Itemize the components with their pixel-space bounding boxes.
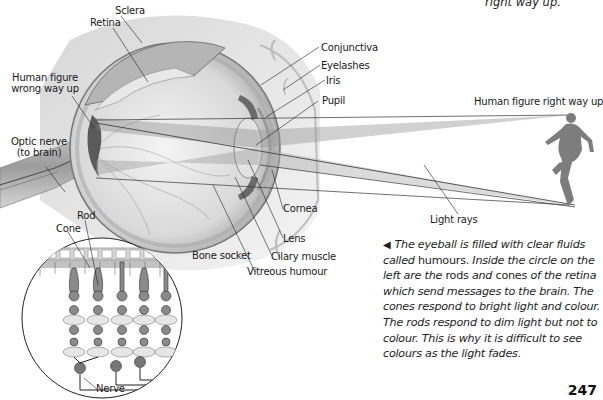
caption-text: ◀The eyeball is filled with clear fluids… — [383, 237, 601, 362]
label-lens: Lens — [283, 233, 305, 244]
label-conjunctiva: Conjunctiva — [321, 42, 378, 53]
caption-segment: of the retina which send messages to the… — [383, 269, 600, 360]
label-cornea: Cornea — [283, 203, 317, 214]
label-iris: Iris — [326, 75, 340, 86]
label-human-figure-wrong-way-up: Human figure wrong way up — [4, 72, 86, 94]
page-number: 247 — [568, 382, 597, 398]
label-cone: Cone — [56, 223, 81, 234]
label-line-2: (to brain) — [4, 147, 74, 158]
label-line-2: wrong way up — [4, 83, 86, 94]
label-optic-nerve: Optic nerve (to brain) — [4, 136, 74, 158]
caption-segment: humours. — [415, 254, 473, 267]
label-eyelashes: Eyelashes — [321, 60, 369, 71]
label-nerve: Nerve — [96, 383, 125, 394]
caption-segment: rods — [442, 269, 472, 282]
label-line-1: Human figure — [4, 72, 86, 83]
label-retina: Retina — [90, 17, 121, 28]
label-ciliary-muscle: Cilary muscle — [271, 251, 336, 262]
label-line-1: Optic nerve — [4, 136, 74, 147]
label-human-figure-right-way-up: Human figure right way up — [474, 96, 603, 107]
human-figure-silhouette — [545, 113, 594, 206]
title-fragment: right way up. — [485, 0, 561, 9]
caption-segment: cones — [492, 269, 530, 282]
caption-arrow-icon: ◀ — [383, 239, 390, 250]
label-vitreous-humour: Vitreous humour — [247, 266, 327, 277]
label-light-rays: Light rays — [430, 214, 478, 225]
label-rod: Rod — [77, 210, 95, 221]
label-pupil: Pupil — [322, 95, 345, 106]
label-bone-socket: Bone socket — [192, 250, 251, 261]
caption-segment: and — [472, 269, 492, 282]
label-sclera: Sclera — [115, 5, 145, 16]
